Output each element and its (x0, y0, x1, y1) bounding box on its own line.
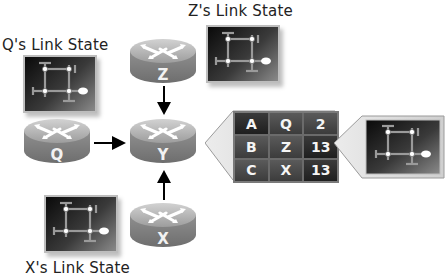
router-x: X (128, 200, 198, 250)
router-y: Y (128, 116, 198, 166)
routing-table: A Q 2 B Z 13 C X 13 (233, 111, 339, 183)
arrow-z-to-y (157, 86, 171, 116)
topology-callout (334, 110, 446, 181)
table-cell: C (235, 160, 268, 181)
router-q: Q (22, 116, 92, 166)
router-q-label: Q (22, 146, 92, 164)
table-cell: 2 (304, 113, 337, 134)
router-z: Z (128, 36, 198, 86)
x-link-state-label: X's Link State (25, 259, 130, 277)
router-z-label: Z (128, 66, 198, 84)
table-cell: 13 (304, 136, 337, 157)
topology-icon (46, 197, 116, 251)
table-cell: B (235, 136, 268, 157)
z-link-state-label: Z's Link State (188, 2, 293, 20)
table-cell: 13 (304, 160, 337, 181)
q-link-state-label: Q's Link State (2, 36, 109, 54)
router-y-label: Y (128, 146, 198, 164)
table-cell: Q (270, 113, 303, 134)
q-link-state-diagram (23, 55, 97, 113)
router-x-label: X (128, 230, 198, 248)
arrow-q-to-y (94, 136, 128, 150)
table-cell: X (270, 160, 303, 181)
topology-icon (25, 57, 95, 111)
topology-icon (208, 27, 278, 81)
arrow-x-to-y (157, 170, 171, 200)
table-cell: A (235, 113, 268, 134)
table-cell: Z (270, 136, 303, 157)
z-link-state-diagram (206, 25, 280, 83)
x-link-state-diagram (44, 195, 118, 253)
